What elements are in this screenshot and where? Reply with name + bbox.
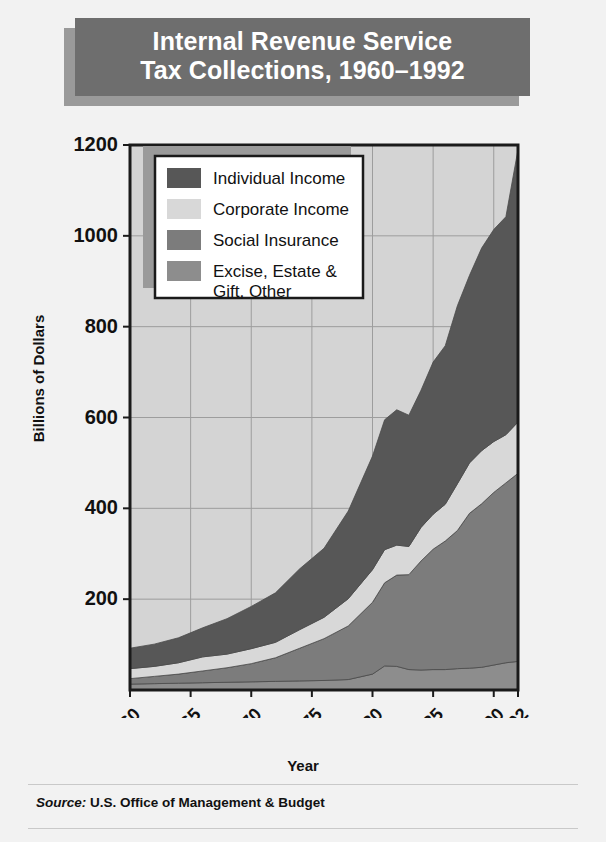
svg-text:1965: 1965 <box>162 704 204 718</box>
y-tick-label: 1200 <box>74 133 119 155</box>
y-tick-label: 400 <box>85 496 118 518</box>
legend-label: Individual Income <box>213 169 345 188</box>
legend-label: Corporate Income <box>213 200 349 219</box>
x-tick-label: 1965 <box>162 704 204 718</box>
svg-text:1985: 1985 <box>405 704 447 718</box>
title-banner: Internal Revenue Service Tax Collections… <box>75 18 530 96</box>
svg-text:1980: 1980 <box>344 704 386 718</box>
chart-container: 2004006008001000120019601965197019751980… <box>0 118 606 718</box>
legend-swatch <box>167 261 201 281</box>
x-tick-label: 1990 <box>465 704 507 718</box>
x-tick-label: 1980 <box>344 704 386 718</box>
stacked-area-chart: 2004006008001000120019601965197019751980… <box>0 118 606 718</box>
divider-bottom <box>28 828 578 829</box>
x-tick-label: 1975 <box>284 704 326 718</box>
y-tick-label: 200 <box>85 587 118 609</box>
legend-swatch <box>167 230 201 250</box>
y-tick-label: 600 <box>85 406 118 428</box>
title-banner-wrap: Internal Revenue Service Tax Collections… <box>0 0 606 118</box>
source-label: Source: <box>36 795 86 810</box>
source-text: U.S. Office of Management & Budget <box>86 795 325 810</box>
x-tick-label: 1960 <box>102 704 144 718</box>
legend-label: Excise, Estate & <box>213 262 337 281</box>
page-title-line1: Internal Revenue Service <box>140 27 465 57</box>
svg-text:1975: 1975 <box>284 704 326 718</box>
legend-label: Social Insurance <box>213 231 339 250</box>
legend-swatch <box>167 168 201 188</box>
y-axis-ticks: 20040060080010001200 <box>74 133 131 609</box>
svg-text:1990: 1990 <box>465 704 507 718</box>
legend: Individual IncomeCorporate IncomeSocial … <box>143 146 363 301</box>
y-axis-title: Billions of Dollars <box>30 279 47 479</box>
y-tick-label: 1000 <box>74 224 119 246</box>
divider-top <box>28 784 578 785</box>
page-title: Internal Revenue Service Tax Collections… <box>140 27 465 88</box>
page-title-line2: Tax Collections, 1960–1992 <box>140 56 465 86</box>
x-tick-label: 1985 <box>405 704 447 718</box>
source-line: Source: U.S. Office of Management & Budg… <box>36 795 325 810</box>
legend-label: Gift, Other <box>213 282 292 301</box>
x-tick-label: 1970 <box>223 704 265 718</box>
legend-swatch <box>167 199 201 219</box>
x-axis-ticks: 19601965197019751980198519901992(est.) <box>102 690 547 718</box>
y-tick-label: 800 <box>85 315 118 337</box>
svg-text:1960: 1960 <box>102 704 144 718</box>
svg-text:1970: 1970 <box>223 704 265 718</box>
x-axis-title: Year <box>0 757 606 774</box>
